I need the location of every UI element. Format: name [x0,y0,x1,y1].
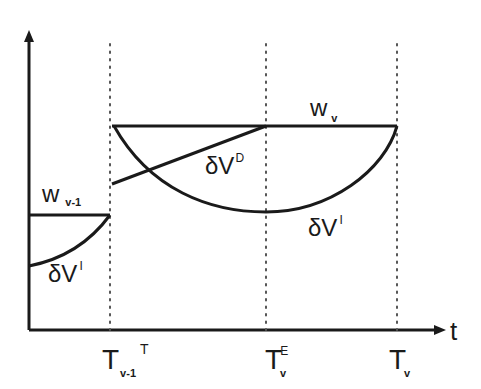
label-dv-i-left-main: δV [48,260,77,287]
tick-t-v-1-sub: v-1 [120,367,136,379]
label-dv-i-left-sup: I [79,259,82,273]
tick-t-v-e-sup: E [280,344,288,358]
label-dv-i-right-sup: I [339,213,342,227]
tick-t-v-e-sub: v [280,367,286,379]
label-dv-i-right-main: δV [308,214,337,241]
x-axis-arrow-icon [434,325,446,335]
label-w-prev-sub: v-1 [65,196,81,208]
dv-i-left-curve [29,215,110,266]
tick-t-v-sub: v [404,367,410,379]
label-dv-i-left: δVI [48,262,81,286]
y-axis-arrow-icon [24,30,34,42]
dv-i-right-curve [114,126,397,212]
tick-t-v-e: TvE [265,346,296,374]
label-dv-i-right: δVI [308,216,341,240]
tick-t-v-1-main: T [102,344,119,375]
tick-t-v-1: Tv-1 [102,346,135,374]
tick-t-v: Tv [389,346,412,374]
label-w-curr-sub: v [331,112,337,124]
tick-t-v-1-extra: T [140,342,149,356]
label-dv-d-main: δV [205,152,234,179]
label-w-curr-main: w [310,94,327,121]
label-w-curr: wv [310,96,333,120]
label-dv-d-sup: D [235,151,244,165]
x-axis-label: t [450,318,457,344]
label-w-prev-main: w [42,180,59,207]
label-w-prev: wv-1 [42,182,75,206]
label-dv-d: δVD [205,154,243,178]
